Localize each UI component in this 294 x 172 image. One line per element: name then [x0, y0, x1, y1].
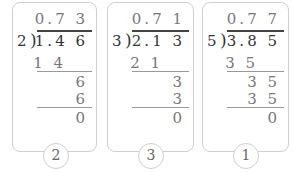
divisor: 3: [112, 33, 125, 49]
divisor: 2: [17, 33, 30, 49]
step-rule: [37, 71, 92, 72]
step-rule: [227, 71, 284, 72]
step-3: 3: [172, 91, 185, 107]
division-card-3: 0.7 7 5 ) 3.8 5 3 5 3 5 3 5 0: [202, 2, 289, 152]
division-bracket: ): [220, 31, 227, 49]
dividend: 3.8 5: [227, 33, 280, 49]
step-3: 6: [75, 91, 88, 107]
answer-badge-2: 3: [138, 143, 164, 169]
step-1: 1 4: [33, 55, 66, 71]
remainder: 0: [267, 110, 280, 126]
step-2: 3 5: [247, 74, 280, 90]
remainder: 0: [75, 110, 88, 126]
step-2: 3: [172, 74, 185, 90]
quotient: 0.7 7: [227, 11, 280, 27]
step-1: 2 1: [130, 55, 163, 71]
step-rule: [37, 107, 92, 108]
quotient: 0.7 1: [132, 11, 185, 27]
division-bracket: ): [125, 31, 132, 49]
step-rule: [132, 107, 189, 108]
step-2: 6: [75, 74, 88, 90]
answer-badge-1: 2: [43, 143, 69, 169]
dividend: 2.1 3: [132, 33, 185, 49]
step-1: 3 5: [225, 55, 258, 71]
step-3: 3 5: [247, 91, 280, 107]
dividend: 1.4 6: [35, 33, 88, 49]
answer-badge-3: 1: [233, 143, 259, 169]
division-card-1: 0.7 3 2 ) 1.4 6 1 4 6 6 0: [12, 2, 97, 152]
division-card-2: 0.7 1 3 ) 2.1 3 2 1 3 3 0: [107, 2, 194, 152]
divisor: 5: [207, 33, 220, 49]
step-rule: [227, 107, 284, 108]
quotient: 0.7 3: [35, 11, 88, 27]
step-rule: [132, 71, 189, 72]
remainder: 0: [172, 110, 185, 126]
